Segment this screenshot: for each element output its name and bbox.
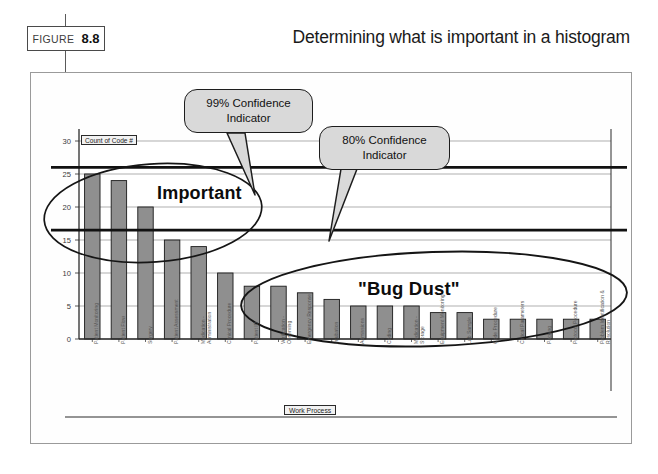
callout-80-confidence: 80% Confidence Indicator	[319, 126, 450, 170]
callout-80-line1: 80% Confidence	[338, 133, 430, 148]
x-category-1: Patient Flow	[121, 316, 127, 344]
histogram-chart: Count of Code # Work Process Important "…	[31, 73, 633, 445]
y-tick-0: 0	[55, 335, 71, 344]
x-category-5: Clinical Procedure	[227, 303, 233, 344]
callout-99-line1: 99% Confidence	[202, 96, 294, 111]
x-category-12: Medication -Storage	[414, 316, 426, 344]
y-tick-30: 30	[55, 137, 71, 146]
y-tick-15: 15	[55, 236, 71, 245]
x-category-9: Intubation	[334, 322, 340, 344]
x-category-6: Patient ID	[254, 322, 260, 344]
x-category-2: Surgery	[148, 326, 154, 344]
figure-frame: Count of Code # Work Process Important "…	[30, 72, 632, 444]
x-category-10: Admissions	[360, 318, 366, 344]
callout-99-confidence: 99% Confidence Indicator	[184, 89, 313, 133]
x-axis-title: Work Process	[284, 405, 336, 415]
bar-2	[138, 207, 153, 339]
y-tick-20: 20	[55, 203, 71, 212]
x-category-4: Medication -Administration	[201, 312, 213, 344]
figure-header: FIGURE 8.8 Determining what is important…	[0, 0, 658, 72]
x-category-11: Coding	[387, 328, 393, 344]
x-category-13: Equipment Monitoring	[440, 294, 446, 344]
y-tick-10: 10	[55, 269, 71, 278]
figure-number-value: 8.8	[82, 31, 100, 46]
y-tick-5: 5	[55, 302, 71, 311]
region-label-important: Important	[157, 183, 242, 204]
x-category-3: Patient Assessment	[174, 299, 180, 344]
series-label-box: Count of Code #	[81, 135, 137, 145]
x-category-17: Packing	[547, 326, 553, 344]
x-category-16: Critical Parameters	[520, 301, 526, 344]
x-category-15: Code Procedure	[493, 307, 499, 344]
x-category-14: Lab Sample	[467, 317, 473, 344]
figure-title: Determining what is important in a histo…	[293, 27, 630, 48]
callout-99-line2: Indicator	[202, 111, 294, 126]
figure-word-label: FIGURE	[32, 33, 74, 45]
x-category-8: Emergency Response	[307, 294, 313, 344]
region-label-bug-dust: "Bug Dust"	[358, 278, 460, 300]
figure-number-badge: FIGURE 8.8	[27, 26, 105, 51]
x-category-0: Patient Monitoring	[94, 303, 100, 344]
callout-80-line2: Indicator	[338, 148, 430, 163]
x-category-19: Problem Identification &Resolution	[600, 290, 612, 344]
x-category-7: Verification -Observing	[281, 316, 293, 344]
x-category-18: Protocol Procedure	[573, 300, 579, 344]
y-tick-25: 25	[55, 170, 71, 179]
